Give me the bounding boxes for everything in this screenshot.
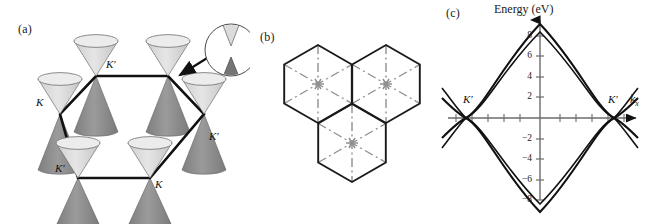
panel-a-kpoint-bottom-right: K: [155, 178, 162, 190]
energy-tick-minus-4: −4: [508, 153, 532, 163]
panel-c-kpoint-right: K′: [608, 93, 618, 105]
energy-tick-8: 8: [512, 30, 532, 40]
energy-tick-minus-6: −6: [508, 174, 532, 184]
energy-tick-6: 6: [512, 50, 532, 60]
panel-c-band-structure: (c) Energy (eV): [440, 0, 656, 224]
panel-b-honeycomb-lattice: (b): [250, 0, 440, 224]
panel-a-kpoint-left: K: [36, 96, 43, 108]
panel-a-kpoint-bottom-left: K′: [55, 162, 65, 174]
energy-tick-2: 2: [512, 91, 532, 101]
panel-a-graphic: [0, 0, 250, 224]
kx-axis-label: kx: [630, 92, 639, 108]
energy-tick-minus-2: −2: [508, 133, 532, 143]
energy-tick-4: 4: [512, 71, 532, 81]
panel-c-graphic: [440, 0, 656, 224]
panel-a-kpoint-top-left: K′: [106, 58, 116, 70]
panel-c-kpoint-left: K′: [463, 93, 473, 105]
panel-a-kpoint-right: K′: [209, 130, 219, 142]
figure-root: (a): [0, 0, 656, 224]
kx-axis-label-sub: x: [635, 99, 639, 108]
panel-b-graphic: [250, 0, 440, 224]
panel-a-dirac-cones: (a): [0, 0, 250, 224]
energy-tick-minus-8: −8: [508, 194, 532, 204]
